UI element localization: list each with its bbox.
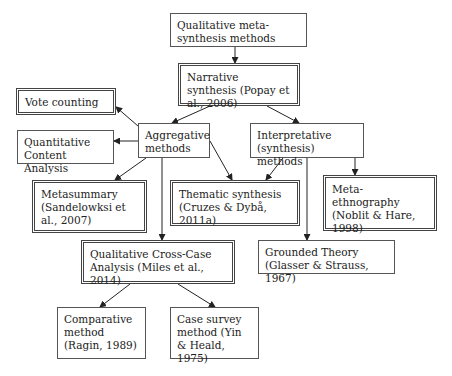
- node-label: Metasummary (Sandelowksi et al., 2007): [41, 188, 126, 226]
- node-label: Narrative synthesis (Popay et al., 2006): [187, 71, 290, 109]
- node-qca: Quantitative Content Analysis: [17, 130, 114, 164]
- node-casesurvey: Case survey method (Yin & Heald, 1975): [170, 307, 259, 359]
- node-root: Qualitative meta-synthesis methods: [170, 13, 307, 47]
- node-label: Qualitative Cross-Case Analysis (Miles e…: [90, 248, 211, 286]
- arrow-aggregative-to-metasummary: [115, 158, 146, 180]
- node-metasummary: Metasummary (Sandelowksi et al., 2007): [32, 180, 147, 233]
- node-label: Comparative method (Ragin, 1989): [64, 313, 137, 351]
- node-vote: Vote counting: [16, 88, 116, 115]
- node-narrative: Narrative synthesis (Popay et al., 2006): [178, 63, 300, 106]
- node-grounded: Grounded Theory (Glasser & Strauss, 1967…: [258, 240, 395, 274]
- arrow-crosscase-to-comparative: [100, 284, 130, 307]
- node-label: Meta-ethnography (Noblit & Hare, 1998): [332, 183, 415, 234]
- arrow-aggregative-to-thematic: [210, 141, 232, 180]
- node-thematic: Thematic synthesis (Cruzes & Dybå, 2011a…: [170, 180, 300, 226]
- arrow-crosscase-to-casesurvey: [178, 284, 215, 307]
- node-interpretative: Interpretative (synthesis) methods: [250, 123, 364, 158]
- node-label: Thematic synthesis (Cruzes & Dybå, 2011a…: [179, 188, 281, 226]
- node-comparative: Comparative method (Ragin, 1989): [57, 307, 146, 359]
- node-crosscase: Qualitative Cross-Case Analysis (Miles e…: [81, 240, 235, 284]
- arrow-aggregative-to-vote: [116, 107, 138, 126]
- node-label: Qualitative meta-synthesis methods: [177, 19, 275, 44]
- node-label: Vote counting: [25, 96, 99, 108]
- node-metaethno: Meta-ethnography (Noblit & Hare, 1998): [323, 175, 437, 231]
- diagram-canvas: Qualitative meta-synthesis methodsNarrat…: [0, 0, 452, 376]
- node-label: Case survey method (Yin & Heald, 1975): [177, 313, 242, 364]
- arrow-narrative-to-interpretative: [267, 106, 299, 123]
- node-aggregative: Aggregative methods: [138, 123, 210, 158]
- node-label: Aggregative methods: [145, 129, 210, 154]
